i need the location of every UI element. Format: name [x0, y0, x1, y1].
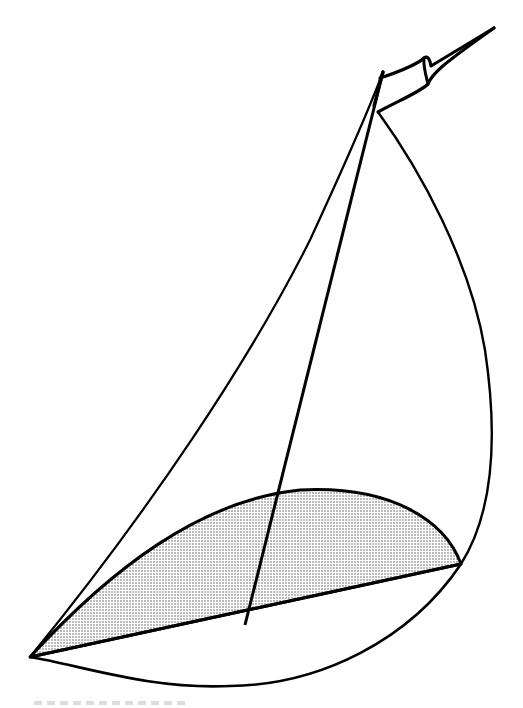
faint-caption — [34, 701, 189, 705]
sailboat-illustration — [0, 0, 523, 708]
pennant-hoist — [424, 58, 428, 84]
pennant-lower-edge — [378, 28, 494, 112]
mainsail-leech — [378, 112, 492, 564]
